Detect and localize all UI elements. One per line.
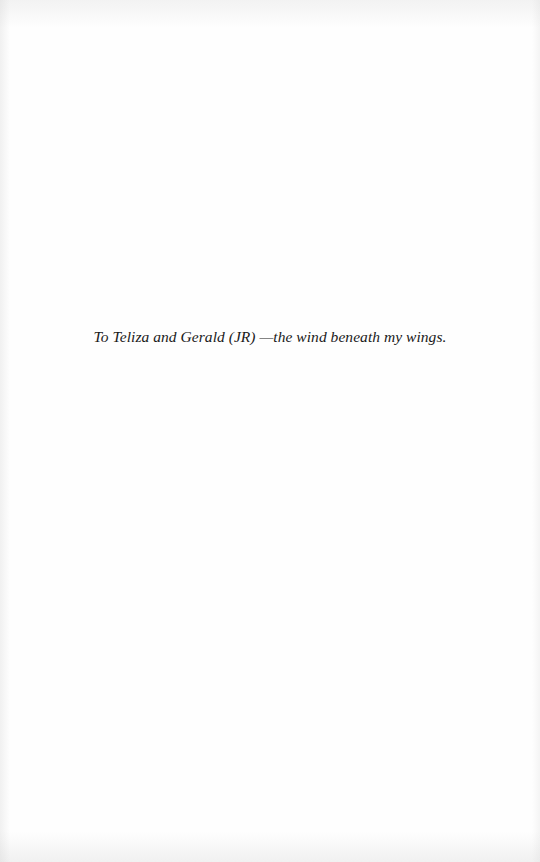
scan-edge-right bbox=[532, 0, 540, 862]
scan-edge-top bbox=[0, 0, 540, 28]
scan-edge-bottom bbox=[0, 832, 540, 862]
book-page: To Teliza and Gerald (JR) —the wind bene… bbox=[0, 0, 540, 862]
dedication-text: To Teliza and Gerald (JR) —the wind bene… bbox=[0, 327, 540, 347]
scan-edge-left bbox=[0, 0, 10, 862]
